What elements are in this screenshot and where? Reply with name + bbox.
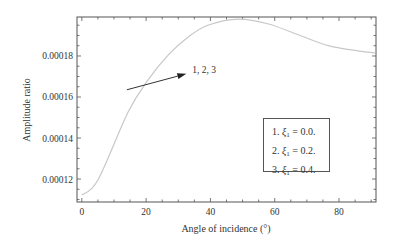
legend-item-1: 1. ξ1 = 0.0. [272,124,329,143]
y-tick-label: 0.00014 [42,134,73,144]
data-line-series-1-2-3 [82,19,376,195]
legend-item-3: 3. ξ1 = 0.4. [272,162,329,181]
annotation-label: 1, 2, 3 [192,65,216,75]
legend-item-subscript: 1 [286,131,290,139]
x-tick-label: 80 [334,207,344,217]
annotation-arrow [127,73,186,90]
x-tick-label: 40 [206,207,216,217]
legend-item-value: = 0.4. [292,164,315,175]
y-tick-label: 0.00018 [42,51,73,61]
x-axis-title: Angle of incidence (°) [181,223,270,235]
x-tick-label: 20 [141,207,151,217]
x-tick-label: 60 [270,207,280,217]
y-tick-label: 0.00012 [42,175,73,185]
chart-canvas: 020406080 0.000120.000140.000160.00018 1… [0,0,393,247]
legend-item-number: 2. [272,145,280,156]
y-axis-title: Amplitude ratio [21,78,32,142]
x-axis-ticks: 020406080 [79,17,371,217]
y-tick-label: 0.00016 [42,92,73,102]
legend-item-value: = 0.0. [292,126,315,137]
legend-item-subscript: 1 [286,150,290,158]
legend-box: 1. ξ1 = 0.0. 2. ξ1 = 0.2. 3. ξ1 = 0.4. [263,118,330,172]
legend-item-subscript: 1 [286,169,290,177]
legend-item-value: = 0.2. [292,145,315,156]
legend-item-number: 1. [272,126,280,137]
plot-area [77,17,376,202]
legend-item-2: 2. ξ1 = 0.2. [272,143,329,162]
x-tick-label: 0 [79,207,84,217]
legend-item-number: 3. [272,164,280,175]
